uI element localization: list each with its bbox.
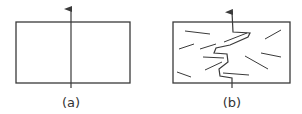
diagram-canvas xyxy=(0,0,302,114)
panel-b-fiber-reinforced-specimen xyxy=(173,12,290,88)
fiber-line xyxy=(203,57,224,58)
crack-path-arrow xyxy=(214,12,250,88)
fiber-line xyxy=(223,73,249,75)
fiber-line xyxy=(200,44,216,49)
fiber-line xyxy=(265,30,281,39)
panel-b-label: (b) xyxy=(223,96,241,109)
fiber-line xyxy=(245,56,268,69)
fiber-line xyxy=(177,72,191,77)
panel-a-label: (a) xyxy=(62,96,80,109)
fiber-line xyxy=(179,44,194,49)
specimen-box xyxy=(16,22,130,83)
panel-a-uncracked-specimen xyxy=(16,9,130,88)
fiber-line xyxy=(185,31,210,34)
fiber-line xyxy=(224,33,247,42)
fiber-line xyxy=(261,53,281,57)
